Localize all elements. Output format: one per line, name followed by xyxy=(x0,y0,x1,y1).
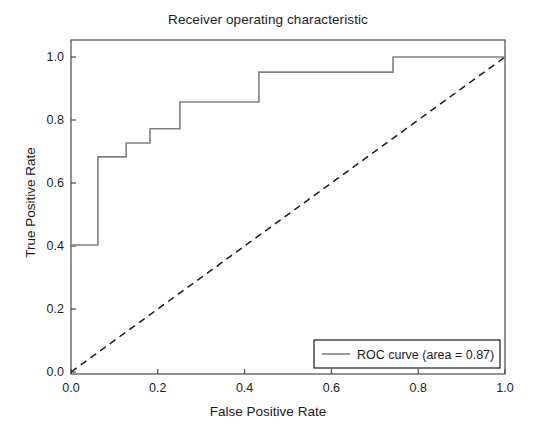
axes-frame xyxy=(71,40,505,374)
plot-area: ROC curve (area = 0.87) xyxy=(0,0,536,438)
chance-diagonal-line xyxy=(71,57,505,372)
legend-label-roc-curve: ROC curve (area = 0.87) xyxy=(357,348,494,362)
axis-ticks xyxy=(71,57,505,374)
roc-chart-figure: Receiver operating characteristic True P… xyxy=(0,0,536,438)
roc-curve-line xyxy=(71,57,505,245)
legend: ROC curve (area = 0.87) xyxy=(314,340,500,368)
